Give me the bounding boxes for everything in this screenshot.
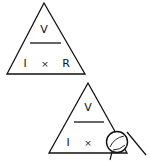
triangle-covered: V I × xyxy=(49,83,146,160)
label-r: R xyxy=(62,57,70,70)
thumb-icon xyxy=(107,132,147,161)
label-i: I xyxy=(66,136,69,149)
label-v: V xyxy=(84,101,92,114)
label-v: V xyxy=(40,23,48,36)
label-i: I xyxy=(23,57,26,70)
label-times: × xyxy=(84,138,92,148)
triangle-full: V I × R xyxy=(7,3,85,74)
label-times: × xyxy=(41,59,49,69)
ohms-law-diagram: V I × R V I × xyxy=(0,0,150,163)
